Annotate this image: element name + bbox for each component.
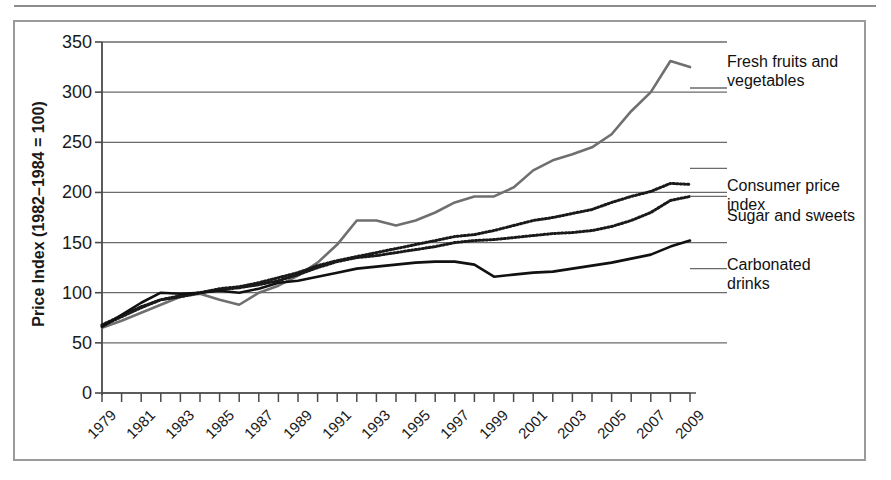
series-line-consumer-price-index [102,183,690,324]
chart-figure: Price Index (1982–1984 = 100) 0501001502… [0,0,891,480]
y-axis-tick-label-150: 150 [40,234,92,252]
series-line-fresh-fruits-and-vegetables [102,61,690,328]
series-line-sugar-and-sweets [102,196,690,325]
series-label-fresh-fruits-and-vegetables: Fresh fruits and vegetables [727,52,877,90]
y-axis-tick-label-0: 0 [40,384,92,402]
y-axis-tick-label-250: 250 [40,133,92,151]
y-axis-tick-label-300: 300 [40,83,92,101]
y-axis-tick-label-200: 200 [40,183,92,201]
y-axis-tick-label-50: 50 [40,334,92,352]
plot-area: Price Index (1982–1984 = 100) 0501001502… [0,0,891,480]
series-label-carbonated-drinks: Carbonated drinks [727,255,877,293]
series-label-sugar-and-sweets: Sugar and sweets [727,206,877,225]
y-axis-tick-label-350: 350 [40,33,92,51]
y-axis-tick-label-100: 100 [40,284,92,302]
